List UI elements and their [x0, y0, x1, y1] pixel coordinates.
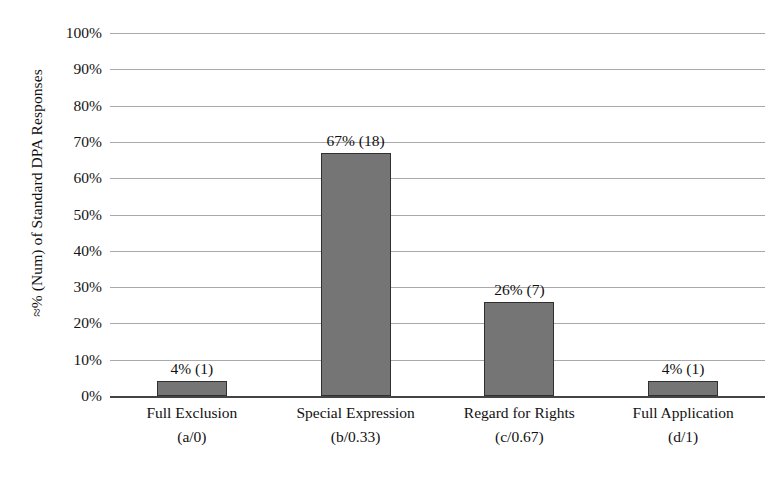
- y-axis-tick-label: 80%: [34, 98, 102, 114]
- gridline: [110, 106, 765, 107]
- y-axis-tick-label: 50%: [34, 207, 102, 223]
- x-axis-category-label: Full Application(d/1): [598, 401, 768, 449]
- bar: [648, 381, 718, 396]
- gridline: [110, 178, 765, 179]
- bar-value-label: 4% (1): [613, 360, 753, 378]
- gridline: [110, 323, 765, 324]
- y-axis-tick-label: 70%: [34, 134, 102, 150]
- x-axis-category-label: Special Expression(b/0.33): [271, 401, 441, 449]
- y-axis-tick-label: 100%: [34, 25, 102, 41]
- y-axis-tick-label: 10%: [34, 352, 102, 368]
- category-name: Full Exclusion: [107, 401, 277, 425]
- x-axis-line: [110, 396, 765, 398]
- gridline: [110, 287, 765, 288]
- y-axis-tick-label: 40%: [34, 243, 102, 259]
- bar-value-label: 4% (1): [122, 360, 262, 378]
- gridline: [110, 142, 765, 143]
- y-axis-tick-label: 20%: [34, 315, 102, 331]
- bar: [321, 153, 391, 396]
- bar-value-label: 26% (7): [449, 281, 589, 299]
- bar: [484, 302, 554, 396]
- gridline: [110, 33, 765, 34]
- category-name: Regard for Rights: [434, 401, 604, 425]
- y-axis-tick-label: 60%: [34, 170, 102, 186]
- category-code: (c/0.67): [434, 425, 604, 449]
- gridline: [110, 215, 765, 216]
- category-code: (a/0): [107, 425, 277, 449]
- gridline: [110, 69, 765, 70]
- plot-area: 4% (1)67% (18)26% (7)4% (1): [110, 33, 765, 396]
- bar-chart: ≈% (Num) of Standard DPA Responses 100%9…: [0, 0, 783, 483]
- x-axis-category-label: Full Exclusion(a/0): [107, 401, 277, 449]
- x-axis-category-labels: Full Exclusion(a/0)Special Expression(b/…: [110, 401, 765, 459]
- category-code: (d/1): [598, 425, 768, 449]
- x-axis-category-label: Regard for Rights(c/0.67): [434, 401, 604, 449]
- y-axis-tick-label: 30%: [34, 279, 102, 295]
- bar-value-label: 67% (18): [286, 132, 426, 150]
- category-name: Full Application: [598, 401, 768, 425]
- y-axis-tick-label: 90%: [34, 61, 102, 77]
- category-code: (b/0.33): [271, 425, 441, 449]
- category-name: Special Expression: [271, 401, 441, 425]
- gridline: [110, 251, 765, 252]
- y-axis-tick-labels: 100%90%80%70%60%50%40%30%20%10%0%: [34, 22, 102, 407]
- bar: [157, 381, 227, 396]
- y-axis-tick-label: 0%: [34, 388, 102, 404]
